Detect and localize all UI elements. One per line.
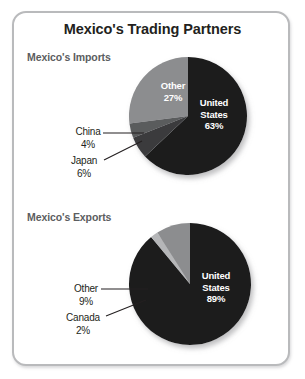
chart-figure: Mexico's Trading Partners Mexico's Impor… (0, 0, 305, 379)
exports-leader-lines (0, 0, 305, 379)
leader-line-canada (106, 300, 146, 316)
